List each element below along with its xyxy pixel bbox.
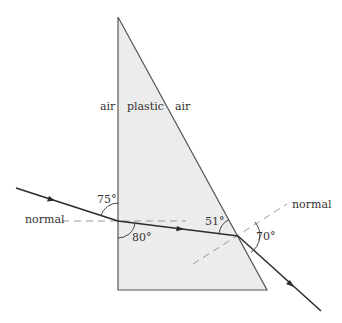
plastic-prism — [118, 17, 267, 290]
angle-label-70: 70° — [256, 230, 276, 243]
angle-label-80: 80° — [132, 231, 152, 244]
label-air-left: air — [100, 100, 116, 113]
angle-label-51: 51° — [205, 215, 225, 228]
label-normal-left: normal — [25, 213, 65, 226]
label-plastic: plastic — [127, 100, 164, 113]
label-normal-right: normal — [292, 198, 332, 211]
angle-label-75: 75° — [97, 193, 117, 206]
refraction-diagram: air plastic air normal normal 75° 80° 51… — [0, 0, 342, 323]
label-air-right: air — [175, 100, 191, 113]
